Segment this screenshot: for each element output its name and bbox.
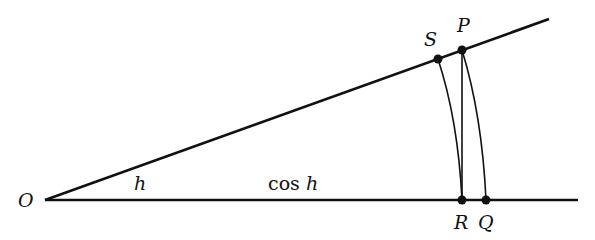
- label-p: P: [456, 14, 471, 36]
- label-angle-h: h: [134, 172, 146, 194]
- point-r: [458, 196, 467, 205]
- geometry-diagram: O S P R Q h cos h: [0, 0, 595, 240]
- arc-s-to-r: [438, 59, 462, 200]
- point-p: [458, 46, 467, 55]
- arc-p-to-q: [462, 50, 486, 200]
- label-cos: cos: [268, 172, 300, 194]
- label-o: O: [18, 189, 34, 211]
- label-cos-var: h: [306, 172, 318, 194]
- point-q: [482, 196, 491, 205]
- point-s: [434, 55, 443, 64]
- label-q: Q: [478, 211, 494, 233]
- label-s: S: [424, 28, 437, 50]
- label-r: R: [453, 211, 468, 233]
